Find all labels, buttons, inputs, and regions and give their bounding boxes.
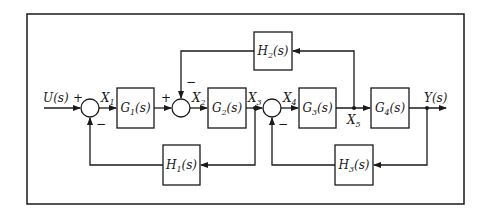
h3-feedback-input (374, 108, 427, 165)
summing-junction-2 (172, 99, 190, 117)
label-g3: G3(s) (302, 101, 333, 117)
label-g1: G1(s) (120, 101, 151, 117)
label-x4: X4 (282, 91, 297, 107)
block-diagram: G1(s) G2(s) G3(s) G4(s) H1(s) H2(s) H3(s… (0, 0, 487, 216)
label-h2: H2(s) (256, 44, 288, 60)
h2-feedback-input (293, 51, 354, 108)
label-x2: X2 (191, 91, 206, 107)
label-x5: X5 (346, 113, 361, 129)
sign-sum1-plus: + (73, 91, 83, 105)
sign-sum2-minus: − (186, 75, 196, 89)
label-g4: G4(s) (375, 101, 406, 117)
junction-x5 (352, 106, 356, 110)
label-output-y: Y(s) (424, 91, 448, 105)
label-h1: H1(s) (165, 158, 197, 174)
junction-y (425, 106, 429, 110)
sign-sum1-minus: − (96, 117, 106, 131)
h1-feedback-input (201, 108, 255, 165)
label-input-u: U(s) (43, 91, 69, 105)
label-x3: X3 (247, 91, 262, 107)
summing-junction-1 (81, 99, 99, 117)
sign-sum3-minus: − (278, 117, 288, 131)
summing-junction-3 (263, 99, 281, 117)
label-x1: X1 (100, 91, 115, 107)
label-g2: G2(s) (212, 101, 243, 117)
sign-sum2-plus: + (161, 91, 171, 105)
label-h3: H3(s) (337, 158, 369, 174)
